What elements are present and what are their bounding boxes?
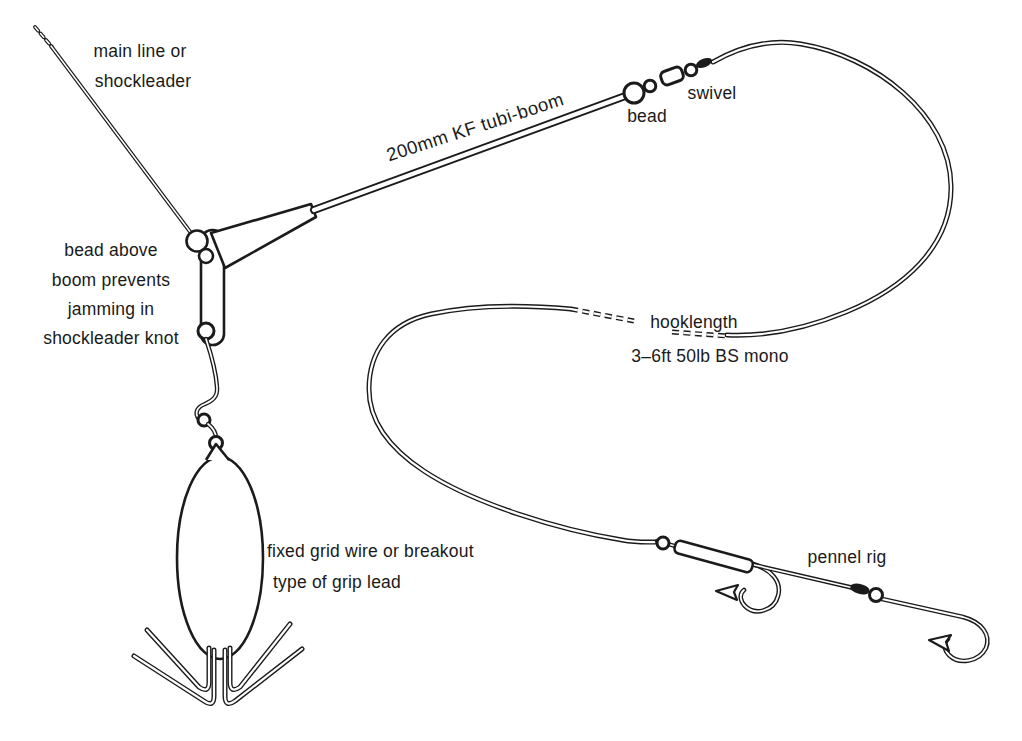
rig-diagram-page: main line or shockleader 200mm KF tubi-b…: [0, 0, 1022, 741]
hook-1-point: [716, 585, 738, 600]
hook-2-knot: [849, 582, 871, 597]
junction-bead: [187, 231, 208, 252]
pennel-rig-label: pennel rig: [808, 547, 887, 567]
hook-2: [882, 599, 987, 661]
grip-lead-label-2: type of grip lead: [273, 572, 401, 592]
bead-above-label-2: boom prevents: [52, 270, 170, 290]
hook-2-point: [929, 635, 951, 651]
hook-2-eye: [870, 589, 883, 602]
lead-assembly: [134, 339, 302, 704]
lead-weight: [177, 457, 263, 659]
boom-end-bead: [624, 83, 644, 103]
bead-label: bead: [627, 106, 667, 126]
swivel-ring-right: [685, 64, 697, 76]
bead-above-label-1: bead above: [64, 240, 157, 260]
hooklength-spec-label: 3–6ft 50lb BS mono: [631, 346, 788, 366]
main-line-label-1: main line or: [94, 41, 187, 61]
tubi-boom-assembly: [187, 83, 645, 345]
swivel-ring-left: [644, 80, 656, 92]
swivel-barrel: [659, 66, 684, 87]
pennel-top-eye: [657, 537, 669, 549]
labels: main line or shockleader 200mm KF tubi-b…: [43, 41, 886, 592]
grip-lead-label-1: fixed grid wire or breakout: [267, 541, 474, 561]
hooklength-label: hooklength: [650, 312, 738, 332]
boom-arm: [211, 204, 316, 268]
rig-diagram-canvas: main line or shockleader 200mm KF tubi-b…: [0, 0, 1022, 741]
bead-above-label-3: jamming in: [67, 299, 155, 319]
main-line-label-2: shockleader: [95, 71, 192, 91]
pennel-sleeve: [673, 540, 754, 574]
swivel-label: swivel: [688, 83, 737, 103]
bead-above-label-4: shockleader knot: [43, 328, 179, 348]
boom-bottom-eye: [198, 323, 214, 339]
